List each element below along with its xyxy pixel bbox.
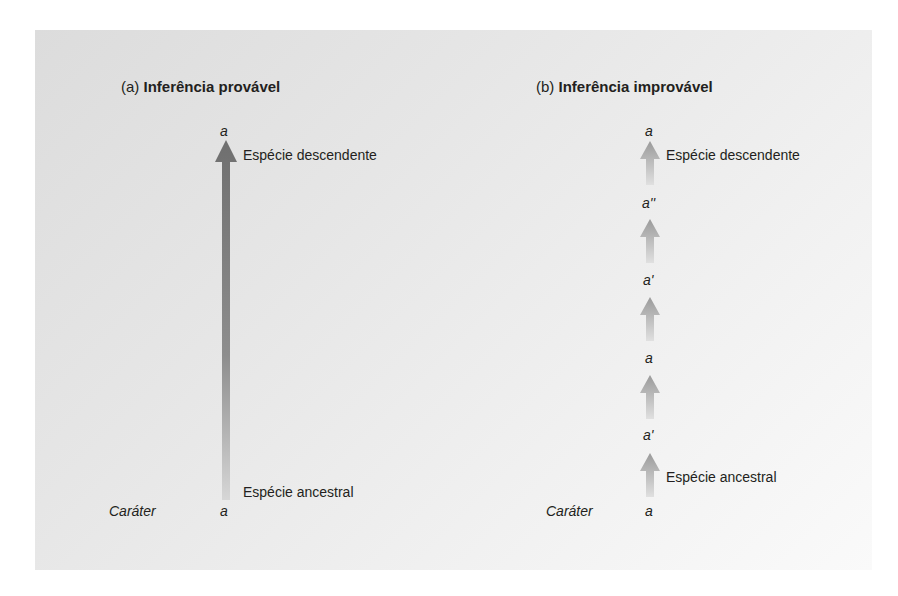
panel-a-bottom-state: a [220,503,228,519]
panel-a-prefix: (a) [121,78,139,95]
panel-a-heading: Inferência provável [144,78,281,95]
short-arrow-icon [639,141,661,185]
panel-b-state-5: a'' [642,195,655,211]
panel-a-descendant-label: Espécie descendente [243,147,377,163]
long-arrow-icon [214,140,238,500]
panel-b-state-4: a' [643,272,653,288]
panel-b-character-label: Caráter [546,503,593,519]
short-arrow-icon [639,453,661,497]
short-arrow-icon [639,375,661,419]
short-arrow-icon [639,219,661,263]
panel-b-state-3: a [645,350,653,366]
short-arrow-icon [639,297,661,341]
panel-a-top-state: a [220,123,228,139]
panel-a-title: (a) Inferência provável [121,78,280,95]
panel-b-state-2: a' [643,427,653,443]
panel-b-heading: Inferência improvável [559,78,713,95]
panel-b-prefix: (b) [536,78,554,95]
panel-a-ancestral-label: Espécie ancestral [243,484,354,500]
panel-b-state-1: a [645,503,653,519]
panel-b-ancestral-label: Espécie ancestral [666,469,777,485]
panel-b-state-6: a [645,123,653,139]
figure-panel [35,30,872,570]
panel-b-descendant-label: Espécie descendente [666,147,800,163]
panel-b-title: (b) Inferência improvável [536,78,713,95]
panel-a-character-label: Caráter [109,503,156,519]
